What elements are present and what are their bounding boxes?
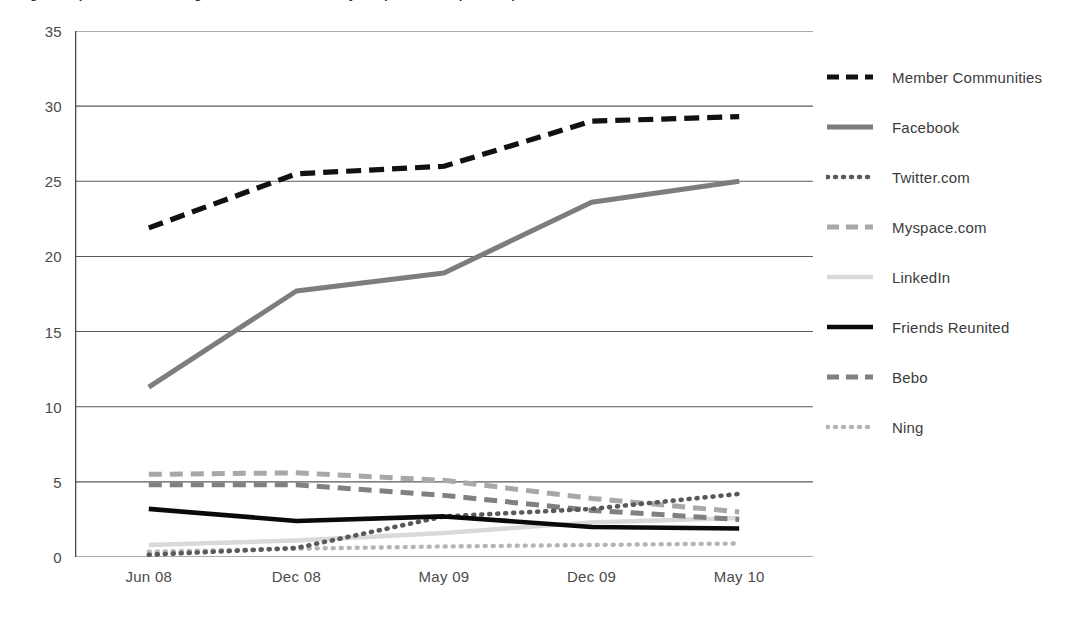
legend-swatch-icon: [826, 370, 874, 384]
y-axis-label: 25: [12, 173, 62, 190]
legend-item-label: Ning: [892, 419, 924, 436]
y-axis-label: 0: [12, 549, 62, 566]
legend-swatch-icon: [826, 420, 874, 434]
x-axis-label: Dec 09: [567, 568, 616, 585]
x-axis-label: Jun 08: [125, 568, 172, 585]
y-axis-label: 35: [12, 23, 62, 40]
series-line: [149, 181, 739, 387]
chart-title: Fig 1.2 Top social networking sites in t…: [18, 0, 516, 1]
legend-item[interactable]: Bebo: [826, 352, 1071, 402]
chart-legend: Member CommunitiesFacebookTwitter.comMys…: [826, 52, 1071, 452]
x-axis-label: Dec 08: [272, 568, 321, 585]
y-axis-label: 5: [12, 473, 62, 490]
y-axis-label: 30: [12, 98, 62, 115]
y-axis-label: 15: [12, 323, 62, 340]
legend-item[interactable]: Ning: [826, 402, 1071, 452]
y-axis-label: 10: [12, 398, 62, 415]
legend-swatch-icon: [826, 170, 874, 184]
legend-item-label: Friends Reunited: [892, 319, 1009, 336]
legend-item[interactable]: Member Communities: [826, 52, 1071, 102]
line-chart: Fig 1.2 Top social networking sites in t…: [0, 0, 1077, 620]
legend-swatch-icon: [826, 320, 874, 334]
legend-item-label: Member Communities: [892, 69, 1042, 86]
legend-item-label: Myspace.com: [892, 219, 987, 236]
y-axis-label: 20: [12, 248, 62, 265]
x-axis-label: May 09: [419, 568, 470, 585]
legend-item-label: Twitter.com: [892, 169, 970, 186]
plot-svg: [75, 31, 813, 557]
legend-swatch-icon: [826, 220, 874, 234]
plot-area: [75, 31, 813, 557]
series-line: [149, 473, 739, 512]
series-line: [149, 117, 739, 228]
legend-item[interactable]: Facebook: [826, 102, 1071, 152]
legend-swatch-icon: [826, 70, 874, 84]
legend-swatch-icon: [826, 120, 874, 134]
legend-item[interactable]: LinkedIn: [826, 252, 1071, 302]
series-line: [149, 518, 739, 545]
legend-item[interactable]: Myspace.com: [826, 202, 1071, 252]
legend-item-label: Facebook: [892, 119, 959, 136]
y-axis: 35302520151050: [0, 31, 62, 557]
legend-item[interactable]: Friends Reunited: [826, 302, 1071, 352]
legend-item-label: LinkedIn: [892, 269, 950, 286]
legend-item-label: Bebo: [892, 369, 928, 386]
legend-item[interactable]: Twitter.com: [826, 152, 1071, 202]
legend-swatch-icon: [826, 270, 874, 284]
x-axis: Jun 08Dec 08May 09Dec 09May 10: [75, 568, 813, 592]
x-axis-label: May 10: [714, 568, 765, 585]
